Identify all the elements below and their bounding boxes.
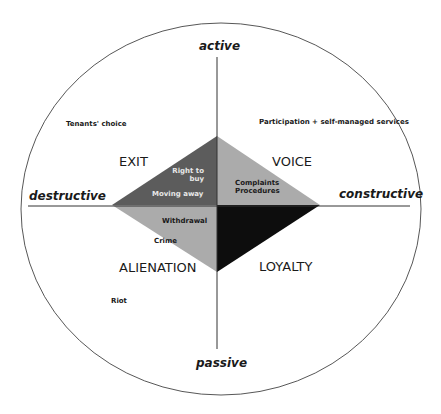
axis-label-passive: passive [196,356,247,370]
item-participation: Participation + self-managed services [259,118,409,126]
quadrant-label-voice: VOICE [272,154,312,169]
quadrant-label-alienation: ALIENATION [119,260,197,275]
item-riot: Riot [111,297,127,305]
quadrant-label-loyalty: LOYALTY [259,259,312,274]
axis-label-destructive: destructive [29,189,106,203]
item-right-to-buy-line1: Right to [168,167,204,175]
item-withdrawal: Withdrawal [162,217,207,225]
item-complaints-line2: Procedures [235,187,280,195]
item-right-to-buy-line2: buy [168,175,204,183]
quadrant-label-exit: EXIT [119,154,148,169]
item-right-to-buy: Right to buy [168,167,204,183]
item-crime: Crime [154,237,177,245]
axis-label-active: active [199,39,240,53]
item-complaints-line1: Complaints [235,179,280,187]
axis-label-constructive: constructive [339,187,423,201]
item-moving-away: Moving away [152,190,203,198]
diagram-canvas [0,0,441,414]
item-complaints-procedures: Complaints Procedures [235,179,280,195]
item-tenants-choice: Tenants' choice [66,120,127,128]
